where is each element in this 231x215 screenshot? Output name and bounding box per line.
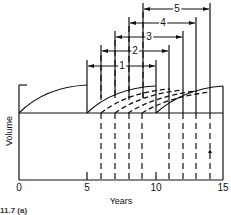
x-tick-10: 10 [150,183,161,193]
interval-label-4: 4 [159,18,167,28]
figure-caption: 11.7 (a) [0,206,27,215]
interval-label-2: 2 [131,46,139,56]
y-axis-title: Volume [4,116,14,146]
recharge-diagram [0,0,231,215]
interval-label-1: 1 [118,61,126,71]
x-tick-15: 15 [217,183,228,193]
cycle-curve-1 [19,85,87,113]
small-up-arrow-icon [208,149,212,153]
x-tick-0: 0 [16,183,22,193]
interval-label-3: 3 [145,32,153,42]
cycle-curve-2 [87,86,156,113]
x-tick-5: 5 [84,183,90,193]
x-axis-title: Years [110,196,133,206]
interval-label-5: 5 [173,4,181,14]
cycle-curve-3 [156,86,223,113]
